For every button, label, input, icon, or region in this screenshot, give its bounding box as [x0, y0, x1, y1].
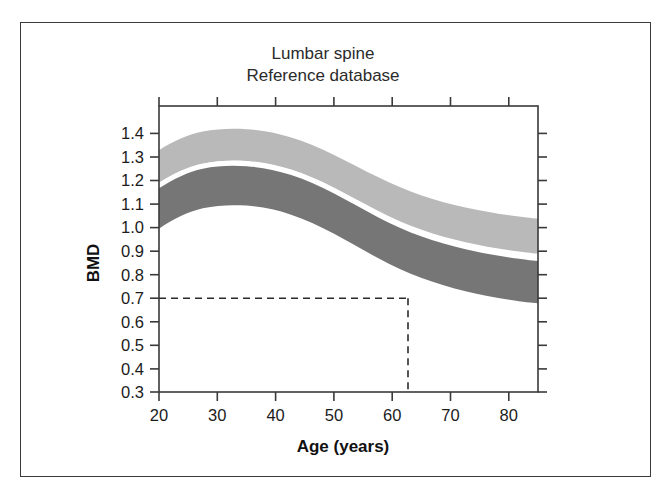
x-tick-label: 80 [500, 406, 518, 424]
y-tick-label: 0.7 [121, 289, 144, 307]
y-tick-label: 0.6 [121, 313, 144, 331]
y-tick-label: 0.3 [121, 383, 144, 401]
y-tick-label: 0.5 [121, 336, 144, 354]
bmd-reference-chart: Lumbar spine Reference database [21, 23, 650, 476]
right-axis-ticks [538, 133, 547, 392]
x-tick-label: 30 [208, 406, 226, 424]
figure-frame: Lumbar spine Reference database [20, 22, 651, 477]
x-tick-label: 70 [441, 406, 459, 424]
y-tick-label: 1.0 [121, 218, 144, 236]
top-axis-ticks [159, 97, 509, 106]
y-tick-label: 1.3 [121, 148, 144, 166]
chart-title-line2: Reference database [246, 66, 399, 85]
x-tick-label: 40 [266, 406, 284, 424]
y-tick-label: 1.1 [121, 195, 144, 213]
y-tick-label: 0.9 [121, 242, 144, 260]
x-axis-tick-labels: 20 30 40 50 60 70 80 [150, 406, 518, 424]
y-tick-label: 1.4 [121, 124, 144, 142]
x-axis-title: Age (years) [297, 437, 390, 456]
y-tick-label: 0.4 [121, 360, 144, 378]
patient-reference-marker [159, 298, 408, 392]
chart-title-line1: Lumbar spine [271, 44, 374, 63]
y-axis-tick-labels: 1.4 1.3 1.2 1.1 1.0 0.9 0.8 0.7 0.6 0.5 … [121, 124, 144, 401]
x-tick-label: 50 [325, 406, 343, 424]
y-tick-label: 1.2 [121, 171, 144, 189]
x-tick-label: 20 [150, 406, 168, 424]
y-axis-title: BMD [84, 244, 103, 283]
bottom-axis-ticks [159, 392, 509, 401]
x-tick-label: 60 [383, 406, 401, 424]
left-axis-ticks [150, 133, 159, 392]
y-tick-label: 0.8 [121, 266, 144, 284]
plot-area [150, 97, 547, 401]
